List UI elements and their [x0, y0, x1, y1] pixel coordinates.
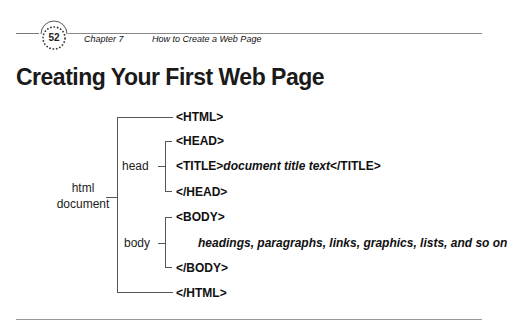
page-number: 52	[44, 32, 64, 43]
head-open-tag: <HEAD>	[176, 134, 224, 148]
html-close-tag: </HTML>	[176, 286, 227, 300]
footer-rule	[16, 319, 482, 320]
body-open-tag: <BODY>	[176, 210, 225, 224]
header-rule-left	[16, 33, 39, 34]
head-label: head	[122, 159, 149, 173]
body-close-tag: </BODY>	[176, 261, 228, 275]
main-bracket-vertical	[117, 117, 118, 293]
body-label: body	[124, 236, 150, 250]
header-rule-right	[68, 33, 482, 34]
chapter-title: How to Create a Web Page	[152, 34, 261, 44]
title-close-tag: </TITLE>	[330, 159, 381, 173]
root-connector	[106, 197, 117, 198]
head-bracket-vertical	[165, 141, 166, 192]
main-bracket-top	[117, 117, 173, 118]
root-label-document: document	[50, 197, 116, 211]
root-label-html: html	[60, 181, 106, 195]
body-content: headings, paragraphs, links, graphics, l…	[198, 236, 507, 250]
head-connector	[158, 166, 165, 167]
main-bracket-bottom	[117, 292, 173, 293]
page-title: Creating Your First Web Page	[16, 64, 324, 91]
body-bracket-top	[165, 217, 172, 218]
title-text: document title text	[223, 159, 330, 173]
chapter-label: Chapter 7	[84, 34, 124, 44]
head-bracket-top	[165, 141, 172, 142]
body-content-text: headings, paragraphs, links, graphics, l…	[198, 236, 507, 250]
body-connector	[158, 243, 165, 244]
head-close-tag: </HEAD>	[176, 185, 227, 199]
head-bracket-bottom	[165, 191, 172, 192]
body-bracket-bottom	[165, 267, 172, 268]
html-open-tag: <HTML>	[176, 110, 223, 124]
title-open-tag: <TITLE>	[176, 159, 223, 173]
body-bracket-vertical	[165, 217, 166, 268]
title-line: <TITLE>document title text</TITLE>	[176, 159, 381, 173]
